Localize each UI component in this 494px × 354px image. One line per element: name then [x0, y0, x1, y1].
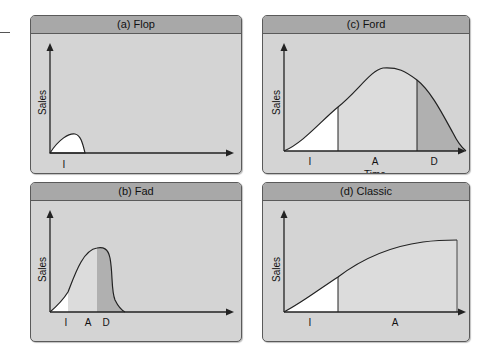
panel-title: (b) Fad: [31, 183, 241, 201]
y-axis-label: Sales: [271, 90, 282, 115]
panel-ford: (c) Ford Sales I A D Time: [262, 15, 470, 174]
panel-fad: (b) Fad Sales I A D: [30, 182, 242, 342]
stage-label-acceptance: A: [85, 317, 92, 328]
x-axis-arrow-icon: [226, 309, 234, 316]
stage-label-introduction: I: [65, 317, 68, 328]
panel-title: (c) Ford: [263, 16, 469, 34]
y-axis-label: Sales: [37, 257, 48, 282]
panel-flop: (a) Flop Sales I: [30, 15, 242, 174]
flop-chart: Sales I: [31, 35, 241, 173]
y-axis-label: Sales: [37, 90, 48, 115]
y-axis-arrow-icon: [47, 210, 54, 218]
panel-title: (d) Classic: [263, 183, 469, 201]
stage-label-introduction: I: [309, 156, 312, 167]
margin-dash: [0, 32, 10, 33]
classic-chart: Sales I A: [263, 202, 469, 341]
stage-label-acceptance: A: [372, 156, 379, 167]
stage-label-decline: D: [102, 317, 109, 328]
stage-label-introduction: I: [63, 159, 66, 170]
x-axis-arrow-icon: [458, 309, 466, 316]
fad-chart: Sales I A D: [31, 202, 241, 341]
stage-label-acceptance: A: [392, 317, 399, 328]
ford-chart: Sales I A D Time: [263, 35, 469, 173]
x-axis-arrow-icon: [226, 150, 234, 157]
y-axis-arrow-icon: [281, 210, 288, 218]
flop-curve: [50, 134, 85, 153]
stage-label-decline: D: [430, 156, 437, 167]
y-axis-label: Sales: [271, 257, 282, 282]
y-axis-arrow-icon: [281, 43, 288, 51]
x-axis-label: Time: [364, 169, 386, 173]
panel-title: (a) Flop: [31, 16, 241, 34]
y-axis-arrow-icon: [47, 43, 54, 51]
panel-classic: (d) Classic Sales I A: [262, 182, 470, 342]
stage-label-introduction: I: [309, 317, 312, 328]
